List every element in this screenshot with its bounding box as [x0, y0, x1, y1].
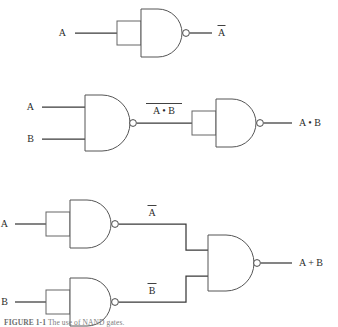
circuit-nand-inverter: A A [0, 0, 338, 75]
inversion-bubble-output-icon [254, 260, 261, 267]
inversion-bubble-1-icon [130, 120, 137, 127]
inversion-bubble-2-icon [257, 120, 264, 127]
label-input-a: A [59, 27, 67, 38]
inversion-bubble-icon [183, 30, 190, 37]
figure-caption-text: The use of NAND gates. [48, 318, 125, 327]
label-output-a-bar: A [218, 27, 226, 38]
label-input-b: B [27, 133, 34, 144]
figure-container: A A A B A • B A • B [0, 0, 338, 327]
inversion-bubble-bottom-icon [112, 299, 119, 306]
circuit-nand-or: A B A B A + B [0, 192, 338, 327]
nand-gate-top-body [70, 200, 111, 248]
nand-gate-2-body [216, 99, 256, 147]
nand-gate-1-body [85, 95, 130, 151]
inversion-bubble-top-icon [112, 221, 119, 228]
label-input-a: A [1, 218, 9, 229]
gate-2-input-stub [192, 111, 216, 135]
label-intermediate-b-bar: B [149, 285, 156, 296]
wire-bottom-to-output-gate [119, 276, 208, 302]
label-output-a-plus-b: A + B [299, 257, 323, 268]
label-input-a: A [27, 101, 35, 112]
label-intermediate-a-bar: A [148, 207, 156, 218]
figure-caption: FIGURE 1-1 The use of NAND gates. [4, 318, 334, 327]
wire-top-to-output-gate [119, 224, 208, 250]
gate-input-stub [117, 21, 141, 45]
nand-gate-body [141, 9, 182, 57]
gate-bottom-input-stub [46, 290, 70, 314]
label-output-ab: A • B [299, 117, 321, 128]
circuit-nand-and: A B A • B A • B [0, 90, 338, 170]
label-intermediate-ab-bar: A • B [153, 105, 175, 116]
gate-top-input-stub [46, 212, 70, 236]
nand-gate-output-body [208, 235, 254, 291]
label-input-b: B [1, 296, 8, 307]
figure-caption-number: FIGURE 1-1 [4, 318, 46, 327]
